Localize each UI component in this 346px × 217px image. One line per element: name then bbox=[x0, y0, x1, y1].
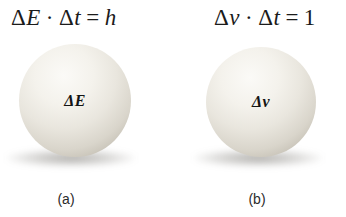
delta-symbol: Δ bbox=[252, 93, 263, 110]
frequency-sphere: Δν bbox=[206, 47, 316, 157]
planck-constant-h: h bbox=[105, 5, 117, 30]
uncertainty-spheres-figure: ΔE·Δt=h Δν·Δt=1 ΔE Δν (a) (b) bbox=[0, 0, 346, 217]
dot-operator: · bbox=[245, 5, 253, 30]
variable-t: t bbox=[273, 5, 280, 30]
variable-nu: ν bbox=[262, 93, 270, 110]
delta-symbol: Δ bbox=[59, 5, 74, 30]
energy-sphere: ΔE bbox=[19, 44, 131, 157]
delta-symbol: Δ bbox=[11, 5, 26, 30]
panel-caption-a: (a) bbox=[41, 191, 91, 207]
variable-nu: ν bbox=[229, 5, 240, 30]
variable-E: E bbox=[26, 5, 41, 30]
dot-operator: · bbox=[46, 5, 54, 30]
equation-frequency-time: Δν·Δt=1 bbox=[214, 5, 316, 31]
sphere-label-delta-nu: Δν bbox=[252, 93, 270, 111]
variable-t: t bbox=[74, 5, 81, 30]
delta-symbol: Δ bbox=[64, 92, 75, 109]
delta-symbol: Δ bbox=[214, 5, 229, 30]
sphere-label-delta-E: ΔE bbox=[64, 92, 86, 110]
equation-energy-time: ΔE·Δt=h bbox=[11, 5, 117, 31]
equals-sign: = bbox=[285, 5, 298, 30]
panel-caption-b: (b) bbox=[232, 191, 282, 207]
delta-symbol: Δ bbox=[258, 5, 273, 30]
variable-E: E bbox=[75, 92, 86, 109]
equals-sign: = bbox=[86, 5, 99, 30]
rhs-one: 1 bbox=[304, 5, 316, 30]
